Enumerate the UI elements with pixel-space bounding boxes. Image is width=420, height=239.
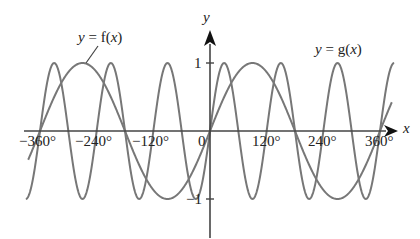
y-axis-arrow-icon	[204, 30, 216, 46]
f-label: y = f(x)	[78, 30, 122, 45]
x-tick-label-120: 120°	[252, 134, 281, 149]
y-tick-label-1: 1	[194, 56, 202, 71]
x-axis-label: x	[403, 121, 410, 136]
x-tick-label-minus-360: −360°	[19, 134, 56, 149]
x-tick-label-minus-240: −240°	[75, 134, 112, 149]
origin-label: 0	[198, 134, 206, 149]
x-tick-label-minus-120: −120°	[132, 134, 169, 149]
g-label: y = g(x)	[315, 42, 362, 57]
f-leader-line	[86, 46, 98, 63]
x-tick-label-240: 240°	[308, 134, 337, 149]
x-tick-label-360: 360°	[365, 134, 394, 149]
y-axis-label: y	[203, 10, 210, 25]
y-tick-label-minus-1: −1	[186, 192, 202, 207]
chart-canvas	[0, 0, 420, 239]
